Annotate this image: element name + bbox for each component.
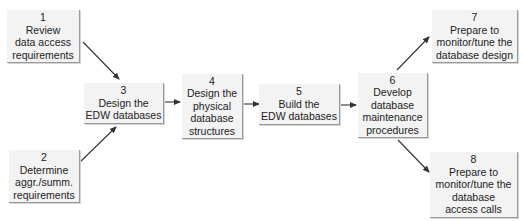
step-label-line: Prepare to xyxy=(449,166,498,179)
step-label-line: EDW databases xyxy=(261,110,337,123)
step-label-line: Build the xyxy=(279,98,320,111)
step-number: 7 xyxy=(472,11,478,24)
step-label-line: data access xyxy=(15,36,71,49)
step-label-line: database design xyxy=(436,49,513,62)
step-label-line: monitor/tune the xyxy=(437,36,513,49)
arrow-1-to-3 xyxy=(83,42,119,79)
step-1-review-data-access-requirements: 1 Review data access requirements xyxy=(7,10,80,63)
step-6-develop-database-maintenance-procedures: 6 Develop database maintenance procedure… xyxy=(358,73,428,138)
step-4-design-physical-database-structures: 4 Design the physical database structure… xyxy=(182,74,243,139)
step-3-design-edw-databases: 3 Design the EDW databases xyxy=(84,83,164,124)
step-number: 1 xyxy=(40,11,46,24)
step-number: 5 xyxy=(296,85,302,98)
arrow-6-to-7 xyxy=(397,37,429,70)
step-number: 8 xyxy=(471,153,477,166)
step-label-line: monitor/tune the xyxy=(436,178,512,191)
step-label-line: database xyxy=(371,99,414,112)
step-label-line: database xyxy=(190,112,233,125)
step-7-prepare-monitor-tune-database-design: 7 Prepare to monitor/tune the database d… xyxy=(432,10,518,63)
step-label-line: procedures xyxy=(366,124,419,137)
step-label-line: Develop xyxy=(373,86,412,99)
process-flow-diagram: 1 Review data access requirements 2 Dete… xyxy=(0,0,523,221)
step-8-prepare-monitor-tune-database-access-calls: 8 Prepare to monitor/tune the database a… xyxy=(430,152,518,218)
step-label-line: structures xyxy=(189,125,235,138)
step-label-line: Design the xyxy=(187,87,237,100)
step-label-line: physical xyxy=(193,100,231,113)
step-number: 2 xyxy=(41,151,47,164)
step-2-determine-aggr-summ-requirements: 2 Determine aggr./summ. requirements xyxy=(9,150,80,203)
step-label-line: Design the xyxy=(98,97,148,110)
arrow-6-to-8 xyxy=(398,140,429,172)
step-label-line: aggr./summ. xyxy=(15,176,73,189)
arrow-2-to-3 xyxy=(79,127,116,163)
step-label-line: requirements xyxy=(12,49,73,62)
step-label-line: Review xyxy=(26,24,60,37)
step-label-line: EDW databases xyxy=(86,109,162,122)
step-label-line: Determine xyxy=(20,164,68,177)
step-label-line: Prepare to xyxy=(450,24,499,37)
step-label-line: maintenance xyxy=(362,111,422,124)
step-number: 6 xyxy=(390,74,396,87)
step-number: 4 xyxy=(209,75,215,88)
step-label-line: requirements xyxy=(13,189,74,202)
step-5-build-edw-databases: 5 Build the EDW databases xyxy=(259,84,340,125)
step-label-line: database xyxy=(452,191,495,204)
step-label-line: access calls xyxy=(445,203,502,216)
step-number: 3 xyxy=(121,84,127,97)
